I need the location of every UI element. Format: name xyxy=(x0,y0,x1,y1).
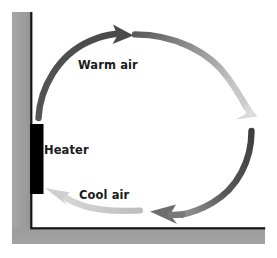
wall-edge-line xyxy=(30,12,32,228)
heater-unit xyxy=(30,124,44,194)
convection-diagram: Warm air Heater Cool air xyxy=(0,0,277,258)
right-lower-arc xyxy=(150,131,252,224)
top-right-arc xyxy=(135,34,246,107)
label-heater: Heater xyxy=(44,145,89,157)
wall xyxy=(12,12,32,243)
label-warm-air: Warm air xyxy=(78,60,138,72)
diagram-canvas xyxy=(0,0,277,258)
label-cool-air: Cool air xyxy=(79,190,129,202)
floor-edge-line xyxy=(30,227,265,229)
floor xyxy=(12,228,265,244)
